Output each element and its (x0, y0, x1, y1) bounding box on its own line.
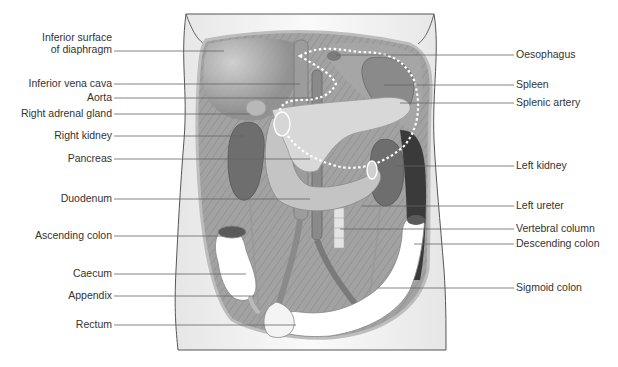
label-pancreas: Pancreas (68, 152, 112, 164)
label-rectum: Rectum (76, 318, 112, 330)
label-aorta: Aorta (87, 91, 112, 103)
label-descending-colon: Descending colon (516, 237, 599, 249)
label-vertebral-column: Vertebral column (516, 222, 595, 234)
label-ascending-colon: Ascending colon (35, 229, 112, 241)
label-caecum: Caecum (73, 267, 112, 279)
label-inferior-surface-of-diaphragm: Inferior surface of diaphragm (42, 31, 112, 55)
label-inferior-vena-cava: Inferior vena cava (29, 77, 112, 89)
label-right-adrenal-gland: Right adrenal gland (21, 107, 112, 119)
label-duodenum: Duodenum (61, 192, 112, 204)
anatomy-diagram: Inferior surface of diaphragm Inferior v… (0, 0, 618, 367)
label-right-kidney: Right kidney (54, 129, 112, 141)
label-oesophagus: Oesophagus (516, 48, 576, 60)
label-spleen: Spleen (516, 78, 549, 90)
label-appendix: Appendix (68, 289, 112, 301)
label-sigmoid-colon: Sigmoid colon (516, 281, 582, 293)
label-left-ureter: Left ureter (516, 199, 564, 211)
label-splenic-artery: Splenic artery (516, 96, 580, 108)
label-left-kidney: Left kidney (516, 159, 567, 171)
